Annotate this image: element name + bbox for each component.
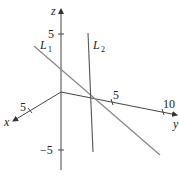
diagram-canvas: z 5 −5 x 5 y 5 10 L 1 L 2 — [0, 0, 179, 176]
svg-text:L: L — [92, 38, 100, 52]
x-tick-5 — [28, 108, 32, 113]
svg-text:L: L — [39, 38, 47, 52]
z-axis-label: z — [50, 4, 56, 18]
line-L1 — [34, 46, 160, 155]
z-axis — [58, 9, 64, 170]
z-tick-label-5: 5 — [48, 27, 54, 41]
y-axis — [61, 92, 177, 115]
y-axis-label: y — [172, 117, 179, 131]
svg-text:2: 2 — [101, 45, 105, 54]
x-axis-label: x — [3, 115, 10, 129]
line-L2-label: L 2 — [92, 38, 105, 54]
y-tick-label-5: 5 — [113, 88, 119, 102]
x-tick-label-5: 5 — [20, 100, 26, 114]
y-tick-label-10: 10 — [163, 97, 175, 111]
z-tick-label-neg5: −5 — [40, 143, 53, 157]
svg-text:1: 1 — [48, 45, 52, 54]
